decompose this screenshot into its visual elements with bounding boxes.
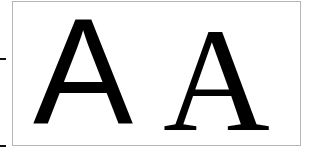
serif-letter-a: A — [163, 6, 270, 152]
glyph-comparison-frame: A A — [12, 1, 301, 146]
tick-mark-bottom — [0, 145, 6, 147]
sans-serif-letter-a: A — [33, 0, 133, 146]
tick-mark-top — [0, 58, 6, 60]
